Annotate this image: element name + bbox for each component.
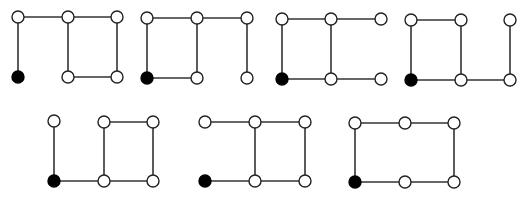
open-node — [299, 175, 311, 187]
open-node — [62, 11, 74, 23]
open-node — [399, 117, 411, 129]
filled-node — [199, 175, 211, 187]
open-node — [299, 116, 311, 128]
filled-node — [405, 74, 417, 86]
graph-diagram-canvas — [0, 0, 526, 205]
open-node — [405, 14, 417, 26]
graph-g3 — [276, 13, 387, 85]
filled-node — [141, 72, 153, 84]
filled-node — [12, 71, 24, 83]
open-node — [111, 11, 123, 23]
graph-g6 — [199, 116, 311, 187]
open-node — [12, 11, 24, 23]
open-node — [349, 117, 361, 129]
open-node — [399, 176, 411, 188]
open-node — [276, 13, 288, 25]
open-node — [249, 175, 261, 187]
open-node — [325, 13, 337, 25]
open-node — [504, 14, 516, 26]
filled-node — [48, 175, 60, 187]
open-node — [147, 116, 159, 128]
open-node — [249, 116, 261, 128]
filled-node — [349, 176, 361, 188]
open-node — [191, 12, 203, 24]
open-node — [455, 14, 467, 26]
open-node — [325, 73, 337, 85]
open-node — [199, 116, 211, 128]
open-node — [448, 117, 460, 129]
graph-g4 — [405, 14, 516, 86]
filled-node — [276, 73, 288, 85]
open-node — [147, 175, 159, 187]
graph-g7 — [349, 117, 460, 188]
graph-g2 — [141, 12, 253, 84]
open-node — [504, 74, 516, 86]
open-node — [62, 71, 74, 83]
open-node — [98, 116, 110, 128]
open-node — [375, 13, 387, 25]
open-node — [191, 72, 203, 84]
open-node — [111, 71, 123, 83]
open-node — [455, 74, 467, 86]
graph-g1 — [12, 11, 123, 83]
open-node — [241, 72, 253, 84]
open-node — [241, 12, 253, 24]
open-node — [48, 115, 60, 127]
graph-g5 — [48, 115, 159, 187]
open-node — [448, 176, 460, 188]
open-node — [98, 175, 110, 187]
open-node — [375, 73, 387, 85]
open-node — [141, 12, 153, 24]
